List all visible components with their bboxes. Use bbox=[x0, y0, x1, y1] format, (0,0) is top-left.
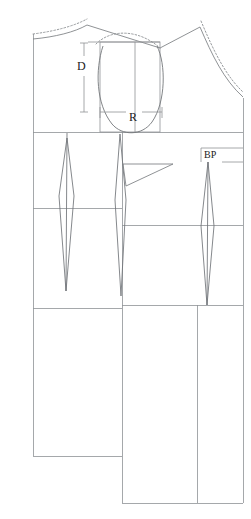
left-neckline-curve bbox=[33, 25, 87, 39]
sleeve-cap-dotted bbox=[96, 33, 160, 48]
darts bbox=[59, 133, 214, 305]
right-armhole-dotted bbox=[201, 21, 243, 92]
bodice-outlines bbox=[33, 25, 243, 97]
left-shoulder-slope bbox=[87, 25, 160, 48]
dart-back-shoulder-axis bbox=[66, 133, 67, 291]
right-shoulder-slope bbox=[160, 27, 200, 48]
right-armhole-curve bbox=[200, 27, 243, 97]
side-bust-wedge bbox=[123, 164, 173, 186]
bust-point-label: BP bbox=[204, 150, 216, 160]
sleeve-depth-label: D bbox=[77, 60, 86, 72]
pattern-draft-svg bbox=[0, 0, 251, 519]
dart-bust-axis bbox=[207, 162, 208, 305]
dimension-lines bbox=[80, 43, 162, 118]
left-neckline-dotted bbox=[33, 19, 87, 34]
dart-front-side bbox=[115, 134, 126, 296]
side-bust-wedge-group bbox=[123, 164, 173, 186]
dotted-guide-curves bbox=[33, 19, 243, 92]
pattern-sheet: D R BP bbox=[0, 0, 251, 519]
sleeve-radius-label: R bbox=[129, 111, 137, 123]
